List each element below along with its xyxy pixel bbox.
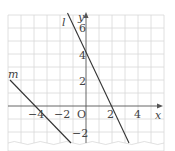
- origin-label: O: [77, 108, 86, 121]
- y-tick-label: −2: [72, 127, 88, 140]
- coordinate-graph: l m y x O −4 −2 2 4 6 4 2 −2: [0, 0, 175, 151]
- line-l: [68, 13, 130, 143]
- line-l-label: l: [62, 16, 66, 29]
- x-axis-label: x: [155, 109, 162, 122]
- y-tick-label: 2: [79, 75, 86, 88]
- y-tick-label: 6: [79, 22, 86, 35]
- x-tick-label: −2: [54, 108, 70, 121]
- y-tick-label: 4: [79, 49, 86, 62]
- x-tick-label: 4: [134, 108, 141, 121]
- line-m-label: m: [8, 68, 18, 81]
- x-axis-arrow-icon: [157, 104, 163, 109]
- x-tick-label: −4: [28, 108, 44, 121]
- x-tick-label: 2: [107, 108, 114, 121]
